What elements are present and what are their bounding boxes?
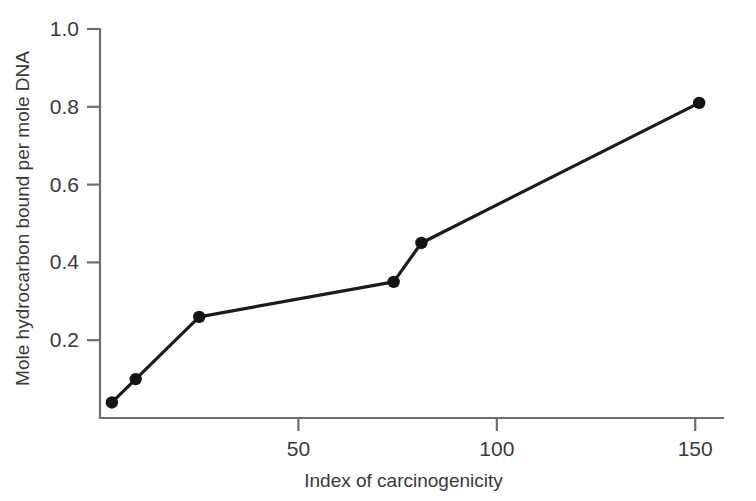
data-point[interactable]: [415, 237, 427, 249]
y-axis-title: Mole hydrocarbon bound per mole DNA: [12, 51, 33, 386]
data-point[interactable]: [693, 97, 705, 109]
x-tick-label-100: 100: [479, 437, 514, 460]
data-point[interactable]: [193, 311, 205, 323]
x-tick-label-150: 150: [678, 437, 713, 460]
x-axis-title: Index of carcinogenicity: [304, 470, 503, 491]
x-tick-label-50: 50: [287, 437, 310, 460]
data-point[interactable]: [387, 276, 399, 288]
line-chart: 0.20.40.60.81.050100150Index of carcinog…: [0, 0, 756, 501]
y-tick-label-0.4: 0.4: [50, 250, 80, 273]
data-point[interactable]: [130, 373, 142, 385]
chart-figure: 0.20.40.60.81.050100150Index of carcinog…: [0, 0, 756, 501]
y-tick-label-0.2: 0.2: [50, 328, 79, 351]
series-line-0: [112, 103, 699, 403]
data-point[interactable]: [106, 396, 118, 408]
y-tick-label-1.0: 1.0: [50, 17, 79, 40]
y-tick-label-0.6: 0.6: [50, 173, 79, 196]
y-tick-label-0.8: 0.8: [50, 95, 79, 118]
